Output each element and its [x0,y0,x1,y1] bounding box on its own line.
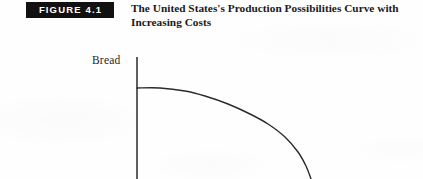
figure-page: FIGURE 4.1 The United States's Productio… [0,0,423,179]
figure-caption-line-1: The United States's Production Possibili… [131,1,417,15]
figure-number-badge: FIGURE 4.1 [26,2,114,18]
figure-number-label: FIGURE 4.1 [38,5,102,15]
chart-plot-area: Bread [0,40,423,179]
production-possibilities-curve [137,88,311,179]
figure-caption: The United States's Production Possibili… [131,1,417,29]
figure-caption-line-2: Increasing Costs [131,15,417,29]
ppf-chart-svg [0,40,423,179]
